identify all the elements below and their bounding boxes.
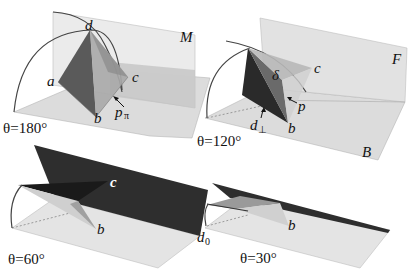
- label-plane-f: F: [391, 51, 402, 67]
- folding-diagram: d a b c p π M θ=180° c δ p b d: [0, 0, 417, 280]
- arc-30: [205, 204, 208, 226]
- arc-60: [11, 185, 22, 228]
- label-p-120: p: [297, 98, 306, 114]
- label-d-30: d: [197, 229, 205, 245]
- label-c-120: c: [314, 60, 321, 76]
- label-delta: δ: [272, 67, 280, 83]
- label-d-sub-30: 0: [205, 236, 210, 247]
- panel-theta-180: d a b c p π M θ=180°: [3, 12, 210, 138]
- label-p: p: [114, 104, 123, 120]
- label-a: a: [47, 73, 55, 89]
- angle-label-30: θ=30°: [240, 250, 277, 266]
- label-plane-b: B: [362, 144, 371, 160]
- panel-theta-120: c δ p b d ⊥ F B θ=120°: [197, 18, 407, 160]
- label-d-120: d: [250, 117, 258, 133]
- label-b: b: [94, 110, 102, 126]
- panel-theta-60: c b θ=60°: [8, 145, 208, 268]
- label-plane-m: M: [179, 29, 194, 45]
- label-b-120: b: [288, 120, 296, 136]
- angle-label-120: θ=120°: [197, 133, 241, 149]
- label-d-sub-120: ⊥: [258, 124, 267, 135]
- angle-label-180: θ=180°: [3, 120, 47, 136]
- panel-theta-30: b d 0 θ=30°: [197, 183, 390, 268]
- label-d: d: [85, 17, 93, 33]
- label-c: c: [132, 69, 139, 85]
- label-b-60: b: [97, 221, 105, 237]
- label-p-sub: π: [124, 110, 129, 121]
- label-b-30: b: [288, 217, 296, 233]
- angle-label-60: θ=60°: [8, 251, 45, 267]
- label-c-60: c: [110, 174, 117, 190]
